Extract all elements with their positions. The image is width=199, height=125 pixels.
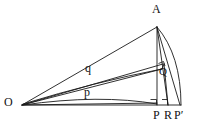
label-O: O — [4, 96, 13, 108]
label-A: A — [152, 3, 161, 15]
geometry-figure: A O Q P R P′ p q — [0, 0, 199, 125]
label-Q: Q — [159, 66, 167, 77]
label-P: P — [153, 109, 160, 121]
label-segment-q: q — [85, 62, 91, 74]
label-P-prime: P′ — [174, 109, 183, 121]
geometry-canvas — [0, 0, 199, 125]
right-angle-mark-R — [162, 100, 168, 105]
label-segment-p: p — [84, 86, 90, 98]
label-R: R — [164, 109, 172, 121]
